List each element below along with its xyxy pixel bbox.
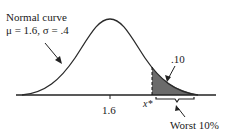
worst-brace — [156, 97, 194, 102]
shaded-tail-region — [152, 67, 195, 95]
curve-label-line1: Normal curve — [6, 11, 67, 23]
curve-label-line2: μ = 1.6, σ = .4 — [6, 24, 69, 36]
arrowhead-icon — [175, 105, 180, 111]
cutoff-label: x* — [143, 98, 152, 110]
worst-label: Worst 10% — [170, 119, 219, 131]
arrowhead-icon — [55, 56, 62, 64]
area-label: .10 — [171, 53, 185, 65]
mean-tick-label: 1.6 — [102, 104, 116, 116]
